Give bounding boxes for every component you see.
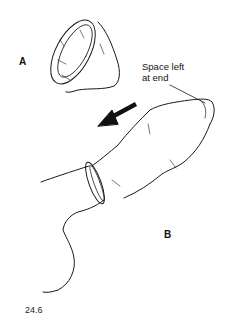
panel-b-label: B [164,229,171,240]
space-left-annotation: Space left at end [142,61,212,83]
condom-panel-a-drawing [42,13,120,92]
annotation-line-2: at end [142,72,212,83]
panel-a-label: A [19,56,26,67]
figure-number: 24.6 [25,305,43,314]
annotation-line-1: Space left [142,61,212,72]
line-drawing [0,0,231,314]
condom-application-illustration: A B Space left at end 24.6 [0,0,231,314]
direction-arrow [98,104,136,126]
condom-panel-b-drawing [41,99,214,292]
